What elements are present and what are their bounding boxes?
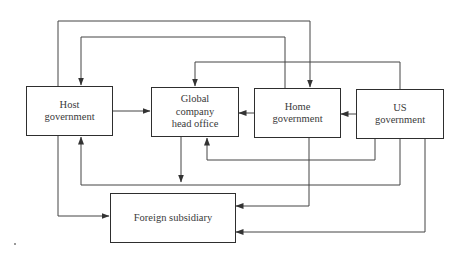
edge-us-to-host	[81, 137, 400, 185]
node-label: Home government	[272, 101, 322, 126]
node-home-government: Home government	[254, 88, 341, 138]
node-global-head-office: Global company head office	[151, 87, 239, 137]
node-host-government: Host government	[26, 86, 113, 136]
edge-us-to-hq-bottom	[207, 138, 375, 160]
node-label: US government	[375, 102, 425, 127]
edge-us-to-hq-top	[195, 62, 400, 89]
stray-mark	[14, 243, 16, 245]
node-label: Foreign subsidiary	[134, 212, 212, 225]
node-us-government: US government	[356, 89, 444, 139]
node-label: Host government	[44, 99, 94, 124]
influence-diagram: Host government Global company head offi…	[0, 0, 465, 256]
edge-host-to-home	[58, 21, 310, 87]
node-label: Global company head office	[172, 93, 219, 131]
node-foreign-subsidiary: Foreign subsidiary	[110, 193, 236, 243]
edge-host-to-sub	[58, 136, 109, 216]
edge-home-to-sub	[236, 138, 309, 206]
